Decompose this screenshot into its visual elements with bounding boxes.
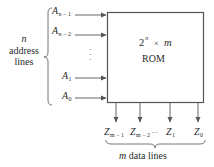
rom-diagram: n address lines An − 1 An − 2 ··· A1 A0 … [0, 0, 214, 167]
output-label-zm-2: Zm − 2··· [130, 127, 158, 138]
input-label-a0: A0 [62, 91, 72, 102]
input-label-an-1: An − 1 [52, 6, 71, 17]
output-ellipsis: ··· [151, 129, 158, 137]
input-label-an-2: An − 2 [52, 26, 71, 37]
data-lines-label: m data lines [119, 151, 167, 161]
rom-name-label: ROM [142, 54, 165, 64]
rom-size-label: 2n × m [139, 35, 172, 49]
output-label-zm-1: Zm − 1 [104, 127, 124, 138]
input-ellipsis: ··· [89, 47, 91, 62]
diagram-lines [0, 0, 214, 167]
lines-word: lines [6, 56, 42, 68]
output-label-z0: Z0 [194, 127, 203, 138]
input-label-a1: A1 [62, 71, 72, 82]
output-label-z1: Z1 [166, 127, 175, 138]
data-brace [106, 140, 205, 148]
address-lines-label: n address lines [6, 33, 42, 68]
address-n: n [6, 33, 42, 45]
address-brace [44, 8, 52, 105]
address-word: address [6, 45, 42, 57]
